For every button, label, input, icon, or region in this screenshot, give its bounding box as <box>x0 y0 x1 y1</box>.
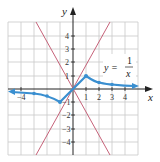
svg-text:1: 1 <box>84 93 88 102</box>
point-marker <box>45 94 49 98</box>
svg-text:−1: −1 <box>62 98 71 107</box>
svg-text:−2: −2 <box>62 111 71 120</box>
svg-text:1: 1 <box>127 55 132 66</box>
y-axis-label: y <box>61 5 67 17</box>
point-marker <box>97 81 101 85</box>
point-marker <box>32 92 36 96</box>
x-axis-label: x <box>147 91 153 103</box>
svg-text:y =: y = <box>103 62 118 73</box>
svg-text:2: 2 <box>65 58 69 67</box>
equation-label: y = 1 x <box>103 54 136 80</box>
svg-text:4: 4 <box>65 32 69 41</box>
y-axis-arrow-icon <box>70 7 76 15</box>
svg-text:−4: −4 <box>17 93 26 102</box>
svg-text:3: 3 <box>110 93 114 102</box>
function-graph: −4 1 2 3 4 4 3 2 1 −1 −2 −3 −4 x y y = 1… <box>0 0 160 162</box>
svg-text:4: 4 <box>123 93 127 102</box>
svg-text:2: 2 <box>97 93 101 102</box>
svg-text:x: x <box>125 68 131 79</box>
svg-text:3: 3 <box>65 45 69 54</box>
svg-text:1: 1 <box>65 72 69 81</box>
point-marker <box>110 83 114 87</box>
svg-text:−3: −3 <box>62 125 71 134</box>
svg-text:−4: −4 <box>62 138 71 147</box>
point-marker <box>84 74 88 78</box>
